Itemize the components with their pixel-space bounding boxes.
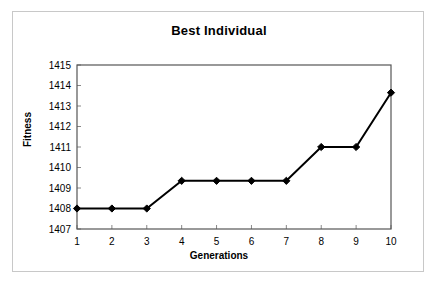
y-tick-label: 1411 [49,142,71,153]
plot-area: 140714081409141014111412141314141415 123… [13,12,425,273]
y-tick-label: 1414 [49,80,72,91]
x-tick-label: 2 [109,236,115,247]
x-tick-label: 8 [318,236,324,247]
x-tick-label: 6 [249,236,255,247]
y-tick-label: 1415 [49,60,72,71]
x-tick-label: 9 [353,236,359,247]
x-tick-label: 1 [74,236,80,247]
x-tick-label: 5 [214,236,220,247]
x-tick-label: 7 [284,236,290,247]
data-point-marker [213,177,220,184]
data-point-marker [248,177,255,184]
data-point-marker [108,205,115,212]
series-line [77,93,391,209]
chart-container: Best Individual Fitness Generations 1407… [12,11,424,272]
y-tick-label: 1408 [49,203,72,214]
y-tick-label: 1410 [49,162,72,173]
x-tick-label: 10 [385,236,397,247]
y-tick-label: 1409 [49,183,72,194]
y-tick-label: 1412 [49,121,72,132]
x-tick-label: 3 [144,236,150,247]
x-axis-ticks: 12345678910 [74,225,397,247]
y-tick-label: 1413 [49,101,72,112]
x-tick-label: 4 [179,236,185,247]
data-series [73,89,394,212]
y-tick-label: 1407 [49,224,72,235]
data-point-marker [73,205,80,212]
